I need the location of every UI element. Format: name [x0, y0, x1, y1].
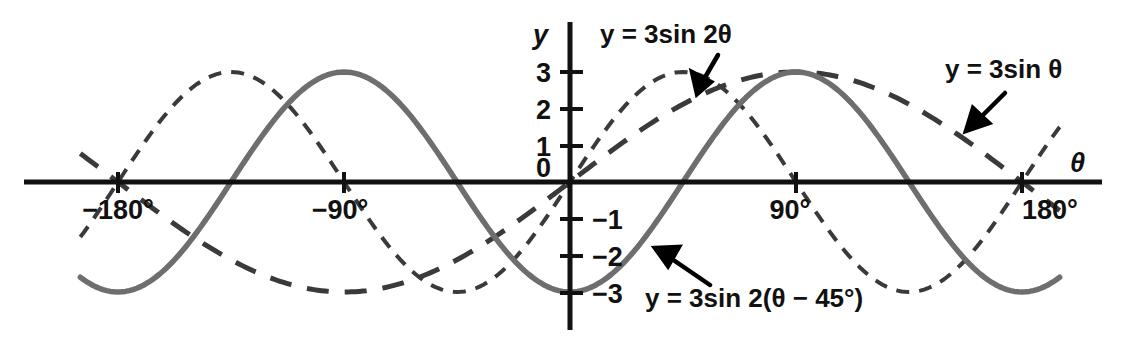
annotation-3sin-theta-label: y = 3sin θ	[945, 54, 1062, 84]
x-tick-label-minus90: −90°	[312, 195, 369, 225]
y-tick-label-minus1: −1	[592, 205, 623, 235]
y-tick-label-minus2: −2	[592, 242, 623, 272]
x-axis-label: θ	[1070, 148, 1085, 178]
annotation-3sin-2theta-label: y = 3sin 2θ	[600, 19, 732, 49]
y-tick-label-minus3: −3	[592, 279, 623, 309]
x-tick-label-180: 180°	[1022, 195, 1078, 225]
trigonometric-graph-figure: −180° −90° 90° 180° 3 2 1 0 −1 −2 −3 y θ…	[0, 0, 1123, 341]
annotation-3sin-2theta-minus45-arrow	[655, 247, 710, 285]
y-tick-label-0: 0	[536, 153, 551, 183]
y-tick-label-2: 2	[536, 95, 551, 125]
x-tick-label-minus180: −180°	[82, 195, 154, 225]
graph-svg: −180° −90° 90° 180° 3 2 1 0 −1 −2 −3 y θ…	[0, 0, 1123, 341]
annotation-3sin-theta-arrow	[966, 93, 1005, 131]
x-tick-label-90: 90°	[770, 195, 811, 225]
y-tick-label-3: 3	[536, 58, 551, 88]
annotation-3sin-2theta-minus45-label: y = 3sin 2(θ − 45°)	[645, 283, 863, 313]
y-axis-label: y	[531, 20, 550, 50]
